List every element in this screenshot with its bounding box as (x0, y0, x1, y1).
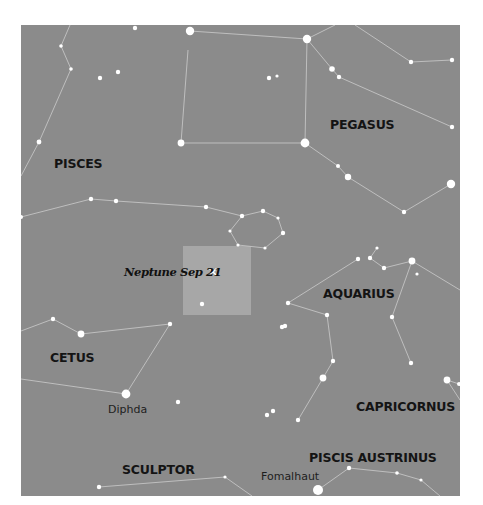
star (265, 413, 269, 417)
star (345, 174, 351, 180)
star-chart: Neptune Sep 21 PISCESPEGASUSAQUARIUSCETU… (0, 0, 483, 505)
star (450, 58, 454, 62)
star (240, 214, 244, 218)
star (402, 210, 406, 214)
constellation-label-pisces: PISCES (54, 156, 103, 171)
star (186, 27, 194, 35)
star (133, 26, 137, 30)
star (395, 471, 399, 475)
star (313, 485, 323, 495)
star (37, 140, 42, 145)
star (356, 257, 360, 261)
star (223, 475, 226, 478)
constellation-label-pegasus: PEGASUS (330, 117, 395, 132)
star (267, 76, 271, 80)
constellation-label-sculptor: SCULPTOR (122, 462, 195, 477)
star (97, 485, 101, 489)
star (419, 478, 422, 481)
star (286, 301, 290, 305)
star (329, 66, 335, 72)
star-label-fomalhaut: Fomalhaut (261, 470, 320, 483)
star (375, 246, 378, 249)
star (78, 331, 85, 338)
star (69, 67, 73, 71)
star (331, 359, 335, 363)
star (122, 390, 131, 399)
star (263, 246, 266, 249)
star (275, 74, 278, 77)
star (178, 140, 185, 147)
constellation-label-piscis-austrinus: PISCIS AUSTRINUS (309, 450, 437, 465)
star (409, 258, 416, 265)
star (447, 180, 455, 188)
star (116, 70, 120, 74)
star (450, 125, 454, 129)
star (296, 418, 300, 422)
star (98, 76, 102, 80)
star (457, 382, 461, 386)
star (228, 229, 231, 232)
star (114, 199, 118, 203)
star (368, 256, 372, 260)
star (283, 324, 287, 328)
star (409, 361, 413, 365)
star (303, 35, 311, 43)
star (176, 400, 180, 404)
star (444, 377, 451, 384)
star (320, 375, 327, 382)
star (301, 139, 310, 148)
star (261, 209, 265, 213)
star (325, 313, 329, 317)
star (200, 302, 204, 306)
neptune-highlight-box[interactable] (183, 246, 251, 315)
star (59, 44, 63, 48)
star-label-diphda: Diphda (108, 403, 147, 416)
star (168, 322, 172, 326)
star (415, 272, 418, 275)
star (382, 266, 386, 270)
constellation-label-capricornus: CAPRICORNUS (356, 399, 455, 414)
star (409, 60, 413, 64)
star (236, 243, 239, 246)
constellation-label-cetus: CETUS (50, 350, 95, 365)
star (390, 315, 394, 319)
star (89, 197, 93, 201)
star (271, 409, 275, 413)
star (204, 205, 208, 209)
star (337, 75, 341, 79)
star (281, 231, 285, 235)
star (51, 317, 55, 321)
star (19, 215, 23, 219)
neptune-label: Neptune Sep 21 (123, 265, 221, 279)
constellation-label-aquarius: AQUARIUS (323, 286, 395, 301)
star (336, 164, 340, 168)
star (347, 466, 351, 470)
star (276, 216, 279, 219)
